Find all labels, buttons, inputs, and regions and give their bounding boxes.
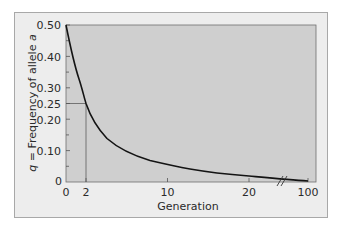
- x-tick-20: 20: [242, 186, 256, 199]
- x-tick-10: 10: [161, 186, 175, 199]
- y-tick-0.20: 0.20: [37, 114, 62, 127]
- y-axis-title: q = Frequency of allele a: [26, 34, 39, 172]
- chart-svg: 0.50 0.40 0.30 0.25 0.20 0.10 0 0 2 10 2…: [0, 0, 340, 229]
- x-tick-2: 2: [83, 186, 90, 199]
- y-axis-title-a: a: [26, 34, 39, 41]
- y-tick-0.10: 0.10: [37, 145, 62, 158]
- y-tick-0.25: 0.25: [37, 98, 62, 111]
- y-tick-0.50: 0.50: [37, 19, 62, 32]
- y-axis-title-q: q: [26, 165, 39, 172]
- plot-area: [66, 25, 316, 182]
- y-tick-0.40: 0.40: [37, 51, 62, 64]
- y-tick-labels: 0.50 0.40 0.30 0.25 0.20 0.10 0: [37, 19, 63, 188]
- x-tick-labels: 0 2 10 20 100: [63, 186, 319, 199]
- x-tick-0: 0: [63, 186, 70, 199]
- y-tick-0.30: 0.30: [37, 82, 62, 95]
- x-tick-100: 100: [298, 186, 319, 199]
- x-axis-title: Generation: [157, 200, 218, 213]
- y-axis-title-mid: = Frequency of allele: [26, 41, 39, 165]
- y-tick-0: 0: [55, 175, 62, 188]
